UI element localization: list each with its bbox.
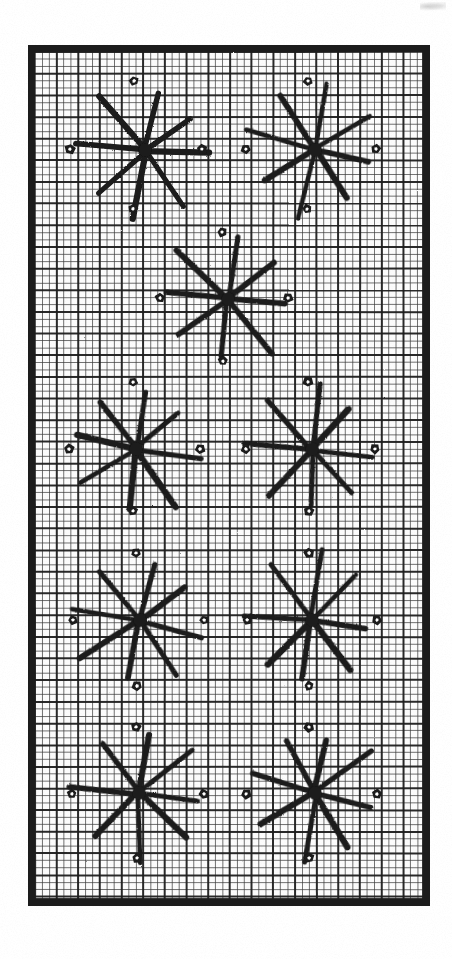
scan-noise-overlay	[0, 0, 452, 959]
artboard	[0, 0, 452, 959]
pattern-chart-svg	[0, 0, 452, 959]
page-root	[0, 0, 452, 959]
